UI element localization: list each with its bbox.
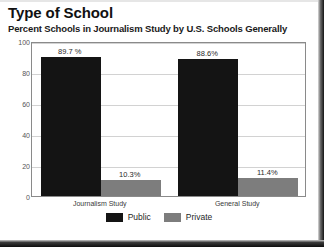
legend-swatch-public-icon (106, 213, 123, 222)
y-axis-tick-label: 0 (4, 194, 30, 201)
bar-value-label: 11.4% (257, 168, 278, 177)
bar-value-label: 88.6% (197, 49, 218, 58)
chart-page: Type of School Percent Schools in Journa… (0, 0, 324, 247)
page-right-edge (318, 0, 324, 247)
legend-label-public: Public (128, 212, 151, 222)
y-axis-tick-label: 80 (4, 70, 30, 77)
y-axis-tick-label: 40 (4, 132, 30, 139)
bar-private-1 (238, 178, 298, 196)
legend-item-private: Private (164, 212, 212, 222)
page-top-edge (0, 0, 324, 2)
plot-wrapper: 02040608010089.7 %10.3%Journalism Study8… (0, 38, 318, 208)
legend-swatch-private-icon (164, 213, 181, 222)
bar-public-1 (178, 59, 238, 196)
chart-subtitle: Percent Schools in Journalism Study by U… (8, 23, 287, 34)
gridline (32, 43, 305, 44)
x-axis-tick-label: General Study (215, 200, 260, 207)
x-axis-tick-label: Journalism Study (73, 200, 127, 207)
y-axis-tick-label: 100 (4, 39, 30, 46)
legend-label-private: Private (186, 212, 212, 222)
page-title: Type of School (8, 4, 113, 21)
y-axis-tick-label: 60 (4, 101, 30, 108)
legend-item-public: Public (106, 212, 151, 222)
bar-public-0 (41, 57, 101, 196)
y-axis-tick-label: 20 (4, 163, 30, 170)
bar-private-0 (101, 180, 161, 196)
page-bottom-edge (0, 240, 324, 247)
bar-value-label: 89.7 % (58, 47, 81, 56)
bar-value-label: 10.3% (119, 170, 140, 179)
chart-legend: Public Private (0, 212, 318, 222)
